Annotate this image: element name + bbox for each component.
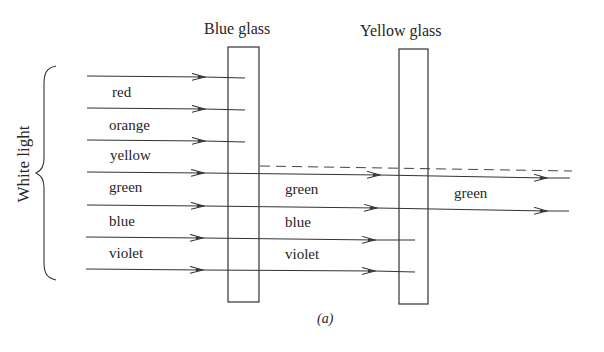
white-light-label: White light — [14, 126, 34, 203]
label-mid-violet: violet — [285, 247, 319, 262]
label-in-yellow: yellow — [110, 148, 151, 163]
yellow-glass-label: Yellow glass — [360, 23, 442, 39]
figure-caption: (a) — [317, 312, 333, 326]
light-filter-diagram — [0, 0, 604, 352]
yellow-glass-filter — [399, 49, 428, 304]
incoming-rays — [86, 76, 570, 272]
label-mid-green: green — [285, 182, 318, 197]
white-light-brace — [36, 66, 56, 280]
blue-glass-label: Blue glass — [204, 21, 270, 37]
label-in-red: red — [112, 85, 131, 100]
label-in-green: green — [109, 180, 142, 195]
label-in-orange: orange — [109, 118, 150, 133]
label-in-violet: violet — [109, 246, 143, 261]
label-out-green: green — [454, 186, 487, 201]
label-in-blue: blue — [109, 214, 135, 229]
dashed-reference-line — [260, 166, 572, 171]
label-mid-blue: blue — [285, 215, 311, 230]
blue-glass-filter — [228, 47, 259, 302]
